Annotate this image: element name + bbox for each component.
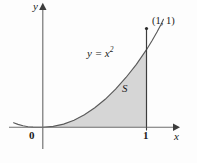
curve-equation-label: y = x2 <box>87 46 113 59</box>
curve-equation-base: y = x <box>87 47 110 59</box>
origin-label: 0 <box>29 130 35 141</box>
y-axis-label: y <box>33 1 38 12</box>
shaded-region-s <box>43 50 147 128</box>
area-under-curve-figure: y x 0 1 (1, 1) y = x2 S <box>0 0 197 163</box>
x-axis-label: x <box>174 131 179 142</box>
region-label-s: S <box>122 83 128 94</box>
point-marker-1-1 <box>145 27 148 30</box>
curve-equation-exponent: 2 <box>110 45 114 54</box>
point-coordinate-label: (1, 1) <box>152 16 175 27</box>
x-tick-label-one: 1 <box>143 130 149 141</box>
y-axis-arrowhead <box>39 3 46 10</box>
